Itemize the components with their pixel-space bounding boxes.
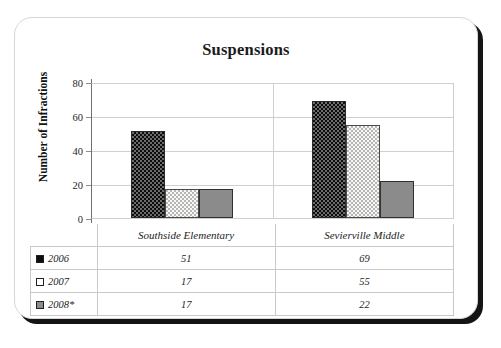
legend-label: 2008* [48, 299, 74, 310]
legend-cell-2007: 2007 [31, 270, 98, 293]
table-row: 2008*1722 [31, 293, 454, 316]
table-cell-r3-c1: 17 [97, 293, 275, 316]
y-tick-label-20: 20 [73, 180, 84, 191]
data-table-body: Southside ElementarySevierville Middle20… [31, 224, 454, 316]
plot-area [91, 83, 454, 219]
y-tick-label-0: 0 [78, 214, 83, 225]
plot-region: 806040200 [62, 83, 454, 238]
y-axis-ticks: 806040200 [62, 83, 86, 219]
bar-group-1 [92, 84, 273, 218]
bar-2006-group2 [312, 101, 346, 218]
bar-2007-group1 [165, 189, 199, 218]
legend-label: 2007 [48, 276, 69, 287]
bar-2006-group1 [131, 131, 165, 218]
table-cell-r1-c2: 69 [275, 247, 453, 270]
data-table: Southside ElementarySevierville Middle20… [30, 224, 454, 316]
legend-cell-2006: 2006 [31, 247, 98, 270]
table-cell-r3-c2: 22 [275, 293, 453, 316]
legend-swatch-icon-2008 [36, 301, 44, 309]
table-column-header-1: Southside Elementary [97, 224, 275, 247]
table-cell-r2-c2: 55 [275, 270, 453, 293]
table-header-row: Southside ElementarySevierville Middle [31, 224, 454, 247]
chart-card: Suspensions Number of Infractions 806040… [14, 17, 478, 319]
y-tick-label-40: 40 [73, 146, 84, 157]
table-row: 20065169 [31, 247, 454, 270]
table-row: 20071755 [31, 270, 454, 293]
chart-card-wrapper: Suspensions Number of Infractions 806040… [0, 0, 501, 348]
bar-2007-group2 [346, 125, 380, 219]
table-column-header-2: Sevierville Middle [275, 224, 453, 247]
y-tick-label-80: 80 [73, 78, 84, 89]
legend-swatch-icon-2006 [36, 255, 44, 263]
y-axis-label: Number of Infractions [37, 47, 49, 207]
bar-2008-group1 [199, 189, 233, 218]
chart-title: Suspensions [15, 40, 477, 60]
table-corner-cell [31, 224, 98, 247]
table-cell-r2-c1: 17 [97, 270, 275, 293]
bar-2008-group2 [380, 181, 414, 218]
table-cell-r1-c1: 51 [97, 247, 275, 270]
legend-label: 2006 [48, 253, 69, 264]
bar-group-2 [273, 84, 454, 218]
legend-cell-2008: 2008* [31, 293, 98, 316]
legend-swatch-icon-2007 [36, 278, 44, 286]
y-tick-label-60: 60 [73, 112, 84, 123]
